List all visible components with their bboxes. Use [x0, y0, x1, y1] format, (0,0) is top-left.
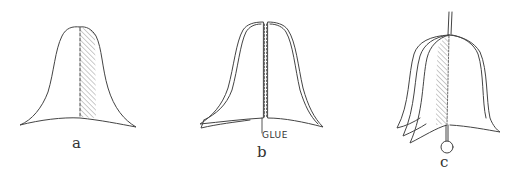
- glue-annotation: GLUE: [262, 131, 288, 140]
- panel-b-bell: [200, 22, 323, 133]
- left-half-inner-edge: [204, 24, 261, 120]
- petal-right-edge: [452, 35, 486, 118]
- hanging-string-left: [448, 12, 449, 35]
- hatched-glue-area: [80, 28, 96, 118]
- hanging-string-right: [451, 12, 452, 35]
- petal-front-right: [449, 35, 500, 132]
- bell-outline: [20, 27, 136, 127]
- panel-label-b: b: [257, 145, 267, 160]
- left-half-outline: [200, 22, 263, 124]
- panel-label-a: a: [72, 136, 81, 151]
- right-half-outline: [268, 22, 323, 127]
- panel-c-bell: [397, 12, 500, 153]
- panel-a-bell: [20, 27, 136, 127]
- bell-assembly-diagram: a GLUE b c: [0, 0, 521, 172]
- ring-clapper: [441, 141, 453, 153]
- panel-label-c: c: [440, 155, 448, 170]
